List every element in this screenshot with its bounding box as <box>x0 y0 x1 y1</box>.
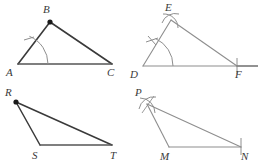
segment-pn <box>147 104 241 147</box>
vertex-label-a: A <box>5 66 13 78</box>
segment-rt <box>16 102 112 145</box>
construction-arc-at-p <box>139 96 156 113</box>
panel-triangle-rst: R S T <box>0 83 129 166</box>
tick-on-ab <box>24 37 34 40</box>
vertex-label-m: M <box>159 150 170 162</box>
triangle-rst-segments <box>16 102 112 145</box>
vertex-label-f: F <box>234 68 242 80</box>
vertex-label-c: C <box>107 66 115 78</box>
triangle-abc-segments <box>18 22 112 64</box>
triangle-pmn-segments <box>147 104 241 147</box>
vertex-label-p: P <box>134 86 142 98</box>
vertex-label-d: D <box>129 68 138 80</box>
segment-ef <box>171 20 237 66</box>
angle-arc-a <box>29 36 48 64</box>
vertex-label-b: B <box>43 3 50 15</box>
segment-de <box>143 20 171 66</box>
segment-bc <box>50 22 112 64</box>
geometry-figure-sheet: A B C D E F <box>0 0 258 166</box>
segment-pm <box>147 104 169 147</box>
panel-triangle-def: D E F <box>129 0 258 83</box>
vertex-label-n: N <box>240 150 249 162</box>
panel-triangle-abc: A B C <box>0 0 129 83</box>
vertex-dot-r <box>13 99 18 104</box>
panel-triangle-pmn: P M N <box>129 83 258 166</box>
segment-ab <box>18 22 50 64</box>
vertex-dot-b <box>47 19 52 24</box>
vertex-label-r: R <box>4 86 12 98</box>
vertex-label-e: E <box>164 1 172 13</box>
segment-rs <box>16 102 40 145</box>
vertex-label-s: S <box>32 149 38 161</box>
triangle-def-segments <box>143 20 258 66</box>
angle-arc-d <box>156 39 173 66</box>
vertex-label-t: T <box>110 149 117 161</box>
